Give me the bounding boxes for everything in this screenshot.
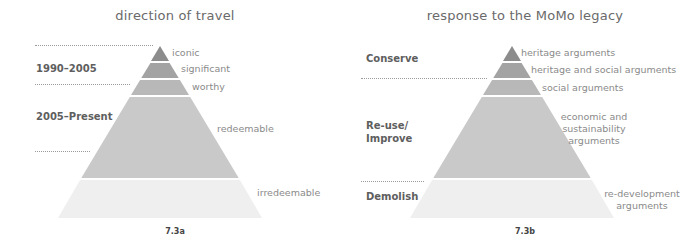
tier-label-heritage-social: heritage and social arguments	[531, 64, 676, 75]
era-label-1990-2005: 1990–2005	[36, 62, 97, 75]
tier-label-worthy: worthy	[192, 81, 225, 92]
figure-caption: 7.3b	[350, 227, 700, 236]
figure-7-3b: response to the MoMo legacy heritage arg…	[350, 0, 700, 245]
figure-7-3a: direction of travel iconic significant w…	[0, 0, 350, 245]
tier-label-redevelopment: re-development arguments	[602, 188, 682, 212]
tier-redevelopment	[410, 180, 614, 218]
tier-iconic	[151, 46, 169, 61]
tier-label-iconic: iconic	[172, 47, 200, 58]
divider-dotted	[35, 45, 153, 46]
divider-dotted	[35, 151, 90, 152]
era-label-2005-present: 2005–Present	[36, 110, 113, 123]
era-label-reuse-improve: Re-use/ Improve	[366, 119, 412, 145]
divider-dotted	[35, 84, 130, 85]
tier-significant	[141, 63, 178, 78]
tier-label-irredeemable: irredeemable	[257, 187, 320, 198]
era-label-conserve: Conserve	[366, 52, 418, 65]
tier-label-redeemable: redeemable	[217, 123, 274, 134]
tier-heritage	[503, 46, 521, 61]
tier-label-social: social arguments	[542, 82, 624, 93]
tier-label-economic-sustainability: economic and sustainability arguments	[554, 111, 634, 147]
tier-irredeemable	[58, 180, 262, 218]
tier-social	[483, 80, 541, 95]
tier-label-significant: significant	[181, 63, 230, 74]
tier-label-heritage: heritage arguments	[521, 47, 615, 58]
era-label-demolish: Demolish	[366, 190, 418, 203]
tier-worthy	[131, 80, 189, 95]
figure-caption: 7.3a	[0, 227, 350, 236]
divider-dotted	[361, 181, 424, 182]
divider-dotted	[361, 78, 487, 79]
tier-heritage-social	[493, 63, 530, 78]
